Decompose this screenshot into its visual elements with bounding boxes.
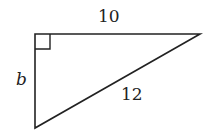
triangle	[35, 34, 200, 128]
label-top-side: 10	[98, 6, 120, 26]
label-hypotenuse: 12	[121, 84, 143, 104]
right-angle-marker	[35, 34, 50, 49]
label-left-side: b	[16, 69, 27, 89]
triangle-diagram: 10 b 12	[0, 0, 214, 140]
